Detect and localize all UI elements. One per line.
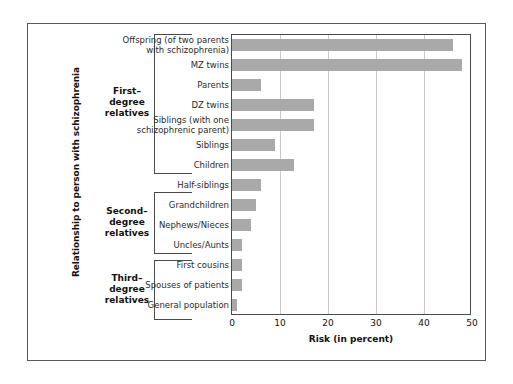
category-label-children: Children: [89, 160, 229, 170]
gridline-20: [328, 35, 329, 314]
category-label-dz-twins: DZ twins: [89, 100, 229, 110]
bar: [232, 259, 242, 271]
bar: [232, 299, 237, 311]
category-label-parents: Parents: [89, 80, 229, 90]
xtick-label-10: 10: [265, 318, 295, 328]
bar: [232, 279, 242, 291]
category-label-nephews-nieces: Nephews/Nieces: [89, 220, 229, 230]
category-label-uncles-aunts: Uncles/Aunts: [89, 240, 229, 250]
category-label-grandchildren: Grandchildren: [89, 200, 229, 210]
category-label-siblings: Siblings: [89, 140, 229, 150]
bar: [232, 99, 314, 111]
y-axis-title: Relationship to person with schizophreni…: [71, 67, 81, 277]
bar: [232, 59, 462, 71]
category-label-mz-twins: MZ twins: [89, 60, 229, 70]
category-label-siblings-one-parent: Siblings (with one schizophrenic parent): [89, 115, 229, 135]
bar: [232, 179, 261, 191]
xtick-label-40: 40: [409, 318, 439, 328]
bar: [232, 139, 275, 151]
category-label-offspring-line2: with schizophrenia): [89, 45, 229, 55]
bar: [232, 159, 294, 171]
category-label-general-population: General population: [89, 300, 229, 310]
chart-figure: Relationship to person with schizophreni…: [27, 23, 486, 361]
category-label-spouses: Spouses of patients: [89, 280, 229, 290]
plot-area: [231, 34, 471, 315]
xtick-label-50: 50: [457, 318, 487, 328]
category-label-offspring: Offspring (of two parents with schizophr…: [89, 35, 229, 55]
bar: [232, 239, 242, 251]
xtick-label-0: 0: [217, 318, 247, 328]
bar: [232, 219, 251, 231]
category-label-siblings-one-parent-line2: schizophrenic parent): [89, 125, 229, 135]
category-label-first-cousins: First cousins: [89, 260, 229, 270]
gridline-30: [376, 35, 377, 314]
category-label-half-siblings: Half-siblings: [89, 180, 229, 190]
bar: [232, 39, 453, 51]
xtick-label-30: 30: [361, 318, 391, 328]
xtick-label-20: 20: [313, 318, 343, 328]
gridline-10: [280, 35, 281, 314]
bar: [232, 199, 256, 211]
category-label-column: Offspring (of two parents with schizophr…: [86, 34, 229, 315]
category-label-siblings-one-parent-line1: Siblings (with one: [89, 115, 229, 125]
category-label-offspring-line1: Offspring (of two parents: [89, 35, 229, 45]
gridline-40: [424, 35, 425, 314]
x-axis-title: Risk (in percent): [231, 334, 471, 344]
bar: [232, 79, 261, 91]
bar: [232, 119, 314, 131]
